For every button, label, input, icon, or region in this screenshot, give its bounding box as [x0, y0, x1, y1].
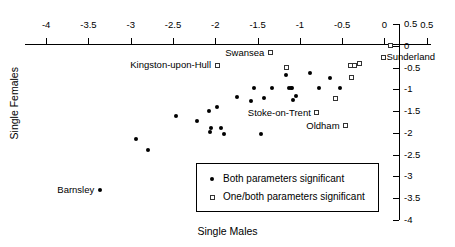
y-tick-mark [393, 220, 399, 221]
data-point [259, 132, 263, 136]
y-tick-mark [393, 46, 399, 47]
x-tick-label: -3 [126, 20, 134, 30]
y-tick-mark [393, 89, 399, 90]
x-tick-mark [46, 38, 47, 44]
data-point [222, 132, 226, 136]
legend-label-filled: Both parameters significant [223, 174, 344, 184]
data-point [343, 123, 348, 128]
data-point [252, 86, 256, 90]
x-axis-title: Single Males [0, 226, 455, 237]
x-tick-label: -1 [296, 20, 304, 30]
x-tick-mark [427, 38, 428, 44]
legend-item-open: One/both parameters significant [206, 188, 378, 206]
data-point [290, 86, 294, 90]
point-label: Barnsley [57, 186, 94, 196]
legend-item-filled: Both parameters significant [206, 170, 378, 188]
data-point [174, 114, 178, 118]
y-tick-label: -1.5 [404, 106, 420, 116]
x-tick-mark [384, 38, 385, 44]
data-point [381, 55, 386, 60]
legend: Both parameters significant One/both par… [196, 163, 379, 212]
point-label: Sunderland [386, 52, 435, 62]
y-tick-label: -4 [404, 215, 412, 225]
y-axis-title: Single Females [9, 53, 20, 153]
y-tick-label: -1 [404, 85, 412, 95]
data-point [314, 110, 319, 115]
data-point [291, 98, 295, 102]
x-tick-mark [88, 38, 89, 44]
filled-circle-icon [206, 177, 218, 181]
x-tick-label: -4 [42, 20, 50, 30]
y-tick-mark [393, 133, 399, 134]
y-tick-mark [393, 68, 399, 69]
data-point [328, 76, 332, 80]
y-tick-label: -2.5 [404, 150, 420, 160]
x-tick-label: -0.5 [334, 20, 350, 30]
data-point [215, 63, 220, 68]
legend-label-open: One/both parameters significant [223, 192, 365, 202]
data-point [317, 86, 321, 90]
data-point [268, 50, 273, 55]
point-label: Oldham [306, 121, 339, 131]
data-point [134, 137, 138, 141]
data-point [215, 105, 219, 109]
x-tick-mark [215, 38, 216, 44]
data-point [308, 71, 312, 75]
data-point [333, 96, 338, 101]
x-tick-label: 0 [382, 20, 387, 30]
data-point [357, 61, 362, 66]
x-tick-mark [173, 38, 174, 44]
data-point [98, 188, 102, 192]
open-square-icon [206, 195, 218, 200]
y-tick-mark [393, 24, 399, 25]
data-point [146, 148, 150, 152]
data-point [195, 119, 199, 123]
data-point [349, 75, 354, 80]
x-tick-label: -1.5 [249, 20, 265, 30]
data-point [249, 99, 253, 103]
data-point [388, 43, 393, 48]
x-tick-mark [342, 38, 343, 44]
y-tick-mark [393, 198, 399, 199]
y-tick-label: -3.5 [404, 193, 420, 203]
point-label: Kingston-upon-Hull [130, 61, 211, 71]
y-tick-mark [393, 111, 399, 112]
data-point [207, 109, 211, 113]
x-axis-line [25, 44, 431, 45]
y-tick-label: 0.5 [404, 19, 417, 29]
data-point [235, 95, 239, 99]
data-point [262, 96, 266, 100]
x-tick-label: 0.5 [420, 20, 433, 30]
data-point [284, 73, 288, 77]
y-tick-label: 0 [404, 41, 409, 51]
y-tick-label: -2 [404, 128, 412, 138]
scatter-chart: -4-3.5-3-2.5-2-1.5-1-0.500.5 0.50-0.5-1-… [0, 0, 455, 247]
data-point [294, 94, 298, 98]
data-point [338, 86, 342, 90]
data-point [352, 63, 357, 68]
x-tick-label: -2.5 [165, 20, 181, 30]
point-label: Swansea [225, 48, 264, 58]
point-label: Stoke-on-Trent [248, 108, 311, 118]
y-tick-mark [393, 155, 399, 156]
data-point [219, 126, 223, 130]
data-point [208, 130, 212, 134]
y-tick-label: -3 [404, 172, 412, 182]
x-tick-label: -3.5 [80, 20, 96, 30]
data-point [284, 65, 289, 70]
x-tick-label: -2 [211, 20, 219, 30]
data-point [270, 86, 274, 90]
x-tick-mark [131, 38, 132, 44]
y-tick-mark [393, 176, 399, 177]
x-tick-mark [300, 38, 301, 44]
x-tick-mark [258, 38, 259, 44]
y-tick-label: -0.5 [404, 63, 420, 73]
